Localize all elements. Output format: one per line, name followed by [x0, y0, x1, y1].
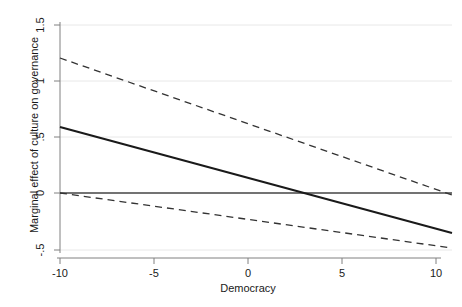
marginal-effect-line	[60, 127, 452, 233]
x-tick-label-0: 0	[228, 267, 268, 279]
y-axis-title: Marginal effect of culture on governance	[28, 15, 40, 255]
x-tick-label-minus5: -5	[134, 267, 174, 279]
x-axis-ticks	[60, 258, 436, 264]
chart-figure: 1.5 1 .5 0 -.5 -10 -5 0 5 10 Marginal ef…	[0, 0, 462, 307]
x-tick-label-5: 5	[322, 267, 362, 279]
upper-confidence-bound-line	[60, 58, 452, 195]
x-axis-title: Democracy	[60, 282, 436, 294]
x-tick-label-10: 10	[416, 267, 456, 279]
x-tick-label-minus10: -10	[40, 267, 80, 279]
marginal-effect-plot	[0, 0, 462, 307]
lower-confidence-bound-line	[60, 193, 452, 248]
y-axis-ticks	[54, 25, 60, 250]
